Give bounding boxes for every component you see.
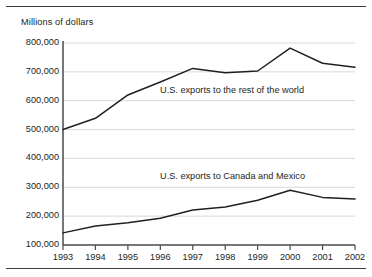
series-lines-group bbox=[63, 48, 355, 233]
x-tick-label: 1997 bbox=[177, 252, 209, 262]
x-tick-label: 1995 bbox=[112, 252, 144, 262]
y-tick-label: 600,000 bbox=[13, 95, 59, 105]
y-tick-label: 100,000 bbox=[13, 239, 59, 249]
y-tick-label: 800,000 bbox=[13, 37, 59, 47]
x-tick-label: 1996 bbox=[144, 252, 176, 262]
gridlines-group bbox=[63, 43, 355, 216]
y-tick-label: 300,000 bbox=[13, 181, 59, 191]
x-tick-label: 1993 bbox=[47, 252, 79, 262]
y-tick-label: 400,000 bbox=[13, 152, 59, 162]
y-tick-label: 200,000 bbox=[13, 210, 59, 220]
x-tick-label: 1998 bbox=[209, 252, 241, 262]
y-tick-label: 500,000 bbox=[13, 124, 59, 134]
x-tick-label: 2002 bbox=[339, 252, 371, 262]
series-line bbox=[63, 190, 355, 233]
series-annotation-label: U.S. exports to the rest of the world bbox=[160, 85, 304, 95]
chart-figure: Millions of dollars 100,000200,000300,00… bbox=[0, 0, 372, 277]
series-annotation-label: U.S. exports to Canada and Mexico bbox=[160, 171, 305, 181]
x-tick-label: 2001 bbox=[307, 252, 339, 262]
y-tick-label: 700,000 bbox=[13, 66, 59, 76]
x-tick-label: 2000 bbox=[274, 252, 306, 262]
x-tick-label: 1994 bbox=[79, 252, 111, 262]
x-tick-label: 1999 bbox=[242, 252, 274, 262]
